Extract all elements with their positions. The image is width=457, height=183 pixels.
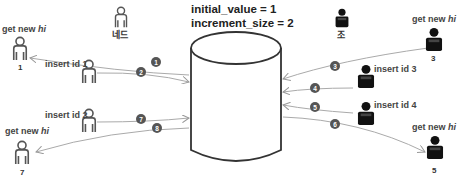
step-8-label: 8 (155, 125, 159, 132)
step-3-label: 3 (333, 63, 337, 70)
role-label-right: 조 (337, 28, 345, 41)
person-icon-get-3 (426, 28, 442, 51)
right-get-value-5: 5 (432, 166, 436, 175)
increment-size-text: increment_size = 2 (191, 16, 294, 30)
diagram: 1 2 7 8 3 4 5 6 initial_value = 1 increm… (0, 0, 457, 183)
step-2-label: 2 (139, 69, 143, 76)
person-icon-get-7 (16, 141, 29, 164)
right-insert-label-3: insert id 3 (374, 64, 417, 74)
person-icon-get-1 (14, 37, 27, 60)
right-insert-label-4: insert id 4 (374, 100, 417, 110)
step-4-label: 4 (313, 85, 317, 92)
step-1-label: 1 (154, 59, 158, 66)
step-6-label: 6 (333, 121, 337, 128)
left-get-value-7: 7 (20, 168, 24, 177)
person-icon-get-5 (427, 136, 443, 159)
role-person-icon-left (116, 7, 127, 27)
step-badges (136, 57, 340, 133)
person-icon-insert-3 (358, 65, 374, 88)
right-get-label-3: get new hi (412, 14, 456, 24)
right-get-value-3: 3 (431, 54, 435, 63)
sequence-config: initial_value = 1 increment_size = 2 (191, 2, 294, 30)
right-get-label-5: get new hi (412, 122, 456, 132)
step-7-label: 7 (139, 116, 143, 123)
role-label-left: 네드 (112, 28, 128, 41)
step-5-label: 5 (313, 104, 317, 111)
left-insert-label-2: insert id 2 (45, 110, 88, 120)
left-get-label-1: get new hi (2, 24, 46, 34)
arrow-step-8 (36, 128, 189, 152)
left-get-value-1: 1 (18, 63, 22, 72)
initial-value-text: initial_value = 1 (191, 2, 294, 16)
database-cylinder (191, 32, 281, 161)
person-icon-insert-4 (358, 102, 374, 125)
left-get-label-7: get new hi (5, 126, 49, 136)
left-insert-label-1: insert id 1 (45, 59, 88, 69)
arrow-step-6 (283, 117, 425, 152)
role-person-icon-right (336, 9, 349, 28)
